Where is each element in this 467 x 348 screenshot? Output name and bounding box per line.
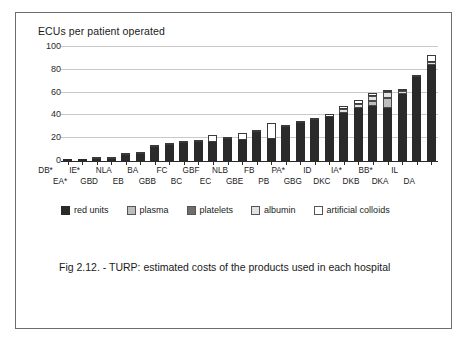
- bar-iestar[interactable]: [92, 157, 101, 160]
- bar-gbe[interactable]: [252, 130, 261, 161]
- bar-segment-red-units: [121, 155, 130, 160]
- x-axis-tick-mark: [431, 162, 432, 165]
- x-axis-tick-mark: [198, 162, 199, 165]
- bar-fb[interactable]: [267, 123, 276, 161]
- bar-segment-red-units: [63, 159, 72, 160]
- y-axis-tick-label: 100: [40, 41, 61, 51]
- x-axis-tick-mark: [300, 162, 301, 165]
- y-axis-tick-label: 60: [40, 87, 61, 97]
- x-axis-tick-mark: [388, 162, 389, 165]
- bar-id[interactable]: [325, 114, 334, 161]
- legend-item[interactable]: plasma: [127, 205, 169, 215]
- bar-segment-red-units: [107, 159, 116, 161]
- legend-item[interactable]: platelets: [187, 205, 234, 215]
- x-axis-label-fb: FB: [234, 166, 264, 175]
- bar-pb[interactable]: [281, 125, 290, 160]
- legend-item-label: red units: [74, 205, 109, 215]
- legend-item-label: albumin: [264, 205, 296, 215]
- bar-nla[interactable]: [121, 153, 130, 161]
- bar-dbstar[interactable]: [63, 159, 72, 160]
- legend-item[interactable]: red units: [61, 205, 109, 215]
- x-axis-tick-mark: [68, 162, 69, 165]
- bar-segment-red-units: [398, 94, 407, 160]
- bar-bbstar[interactable]: [383, 90, 392, 161]
- x-axis-tick-mark: [271, 162, 272, 165]
- bar-iastar[interactable]: [354, 100, 363, 160]
- x-axis-tick-mark: [358, 162, 359, 165]
- bar-segment-red-units: [267, 139, 276, 161]
- x-axis-label-il: IL: [380, 166, 410, 175]
- bar-nlb[interactable]: [238, 133, 247, 160]
- bar-segment-red-units: [412, 77, 421, 160]
- bar-ba[interactable]: [150, 145, 159, 161]
- bar-segment-red-units: [383, 108, 392, 160]
- x-axis-label-pastar: PA*: [263, 166, 293, 175]
- legend-item[interactable]: artificial colloids: [314, 205, 390, 215]
- bar-il[interactable]: [412, 75, 421, 160]
- bar-segment-red-units: [150, 147, 159, 161]
- bar-segment-red-units: [252, 132, 261, 161]
- x-axis-label-iestar: IE*: [60, 166, 90, 175]
- y-axis-tick-label: 40: [40, 109, 61, 119]
- bar-pastar[interactable]: [296, 121, 305, 161]
- bar-segment-red-units: [339, 113, 348, 161]
- chart-legend: red unitsplasmaplateletsalbuminartificia…: [61, 205, 404, 215]
- x-axis-tick-mark: [329, 162, 330, 165]
- legend-swatch-plasma: [127, 206, 136, 215]
- bar-segment-artificial-colloids: [267, 123, 276, 139]
- bar-segment-red-units: [136, 154, 145, 161]
- bar-gbb[interactable]: [165, 143, 174, 160]
- bar-segment-red-units: [208, 142, 217, 160]
- bar-dkc[interactable]: [339, 106, 348, 161]
- bar-gbd[interactable]: [107, 157, 116, 161]
- figure-caption: Fig 2.12. - TURP: estimated costs of the…: [59, 261, 390, 273]
- legend-swatch-artificial-colloids: [314, 206, 323, 215]
- x-axis-tick-mark: [82, 162, 83, 165]
- x-axis-label-gbe: GBE: [220, 177, 250, 186]
- x-axis-tick-mark: [184, 162, 185, 165]
- x-axis-tick-mark: [417, 162, 418, 165]
- bar-dkb[interactable]: [368, 93, 377, 160]
- bar-gbg[interactable]: [310, 118, 319, 161]
- x-axis-line: [61, 161, 438, 163]
- bar-segment-red-units: [427, 65, 436, 161]
- figure-frame: ECUs per patient operated 020406080100 D…: [15, 12, 452, 329]
- bar-fc[interactable]: [179, 141, 188, 161]
- x-axis-label-bc: BC: [161, 177, 191, 186]
- bar-eb[interactable]: [136, 152, 145, 161]
- bar-dka[interactable]: [398, 89, 407, 161]
- bar-da[interactable]: [427, 55, 436, 161]
- x-axis-label-eb: EB: [103, 177, 133, 186]
- legend-swatch-red-units: [61, 206, 70, 215]
- x-axis-label-gbf: GBF: [176, 166, 206, 175]
- bar-gbf[interactable]: [208, 135, 217, 160]
- bar-segment-red-units: [78, 159, 87, 160]
- legend-item-label: plasma: [140, 205, 169, 215]
- x-axis-label-dkc: DKC: [307, 177, 337, 186]
- bar-segment-plasma: [383, 98, 392, 108]
- y-axis-title: ECUs per patient operated: [38, 25, 165, 37]
- legend-item[interactable]: albumin: [251, 205, 296, 215]
- bar-segment-red-units: [165, 145, 174, 160]
- bar-eastar[interactable]: [78, 159, 87, 160]
- x-axis-tick-mark: [315, 162, 316, 165]
- x-axis-label-ba: BA: [118, 166, 148, 175]
- legend-item-label: artificial colloids: [327, 205, 390, 215]
- x-axis-label-dkb: DKB: [336, 177, 366, 186]
- bar-segment-red-units: [368, 106, 377, 161]
- bar-segment-red-units: [296, 123, 305, 161]
- bar-bc[interactable]: [194, 140, 203, 161]
- bar-segment-red-units: [281, 127, 290, 160]
- x-axis-tick-mark: [97, 162, 98, 165]
- x-axis-label-id: ID: [292, 166, 322, 175]
- plot-area: 020406080100: [38, 46, 438, 162]
- x-axis-label-fc: FC: [147, 166, 177, 175]
- y-axis-tick-label: 20: [40, 132, 61, 142]
- x-axis-labels: DB*EA*IE*GBDNLAEBBAGBBFCBCGBFECNLBGBEFBP…: [41, 166, 449, 194]
- bar-segment-artificial-colloids: [427, 55, 436, 63]
- bar-series-group: [63, 47, 436, 161]
- legend-swatch-albumin: [251, 206, 260, 215]
- bar-ec[interactable]: [223, 137, 232, 161]
- y-axis-tick-label: 80: [40, 64, 61, 74]
- bar-segment-red-units: [238, 140, 247, 161]
